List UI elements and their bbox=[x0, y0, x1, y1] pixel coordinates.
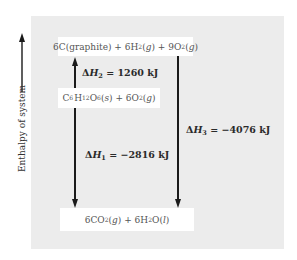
dh2-symbol: ΔH bbox=[82, 67, 98, 78]
dh1-label: ΔH1 = −2816 kJ bbox=[85, 149, 169, 160]
top-text-5: ) bbox=[194, 42, 198, 52]
bot-text-3: O( bbox=[152, 215, 163, 225]
bot-text-4: ) bbox=[166, 215, 170, 225]
dh3-symbol: ΔH bbox=[186, 124, 202, 135]
dh3-arrow-head-icon bbox=[175, 199, 181, 208]
mid-c: C bbox=[62, 93, 69, 103]
dh2-label: ΔH2 = 1260 kJ bbox=[82, 67, 158, 78]
dh1-value: = −2816 kJ bbox=[109, 149, 169, 160]
dh1-subscript: 1 bbox=[101, 154, 106, 162]
bot-text-2: ) + 6H bbox=[118, 215, 148, 225]
axis-arrow-head-icon bbox=[19, 33, 25, 42]
dh1-arrow-head-icon bbox=[72, 199, 78, 208]
dh2-subscript: 2 bbox=[98, 72, 103, 80]
top-text-3: ) + 9O bbox=[151, 42, 181, 52]
dh3-subscript: 3 bbox=[202, 129, 207, 137]
bot-text-1: 6CO bbox=[85, 215, 105, 225]
dh3-label: ΔH3 = −4076 kJ bbox=[186, 124, 270, 135]
mid-o: O bbox=[90, 93, 97, 103]
axis-label: Enthalpy of system bbox=[17, 85, 27, 172]
level-middle-glucose: C6H12O6(s) + 6O2(g) bbox=[58, 88, 160, 108]
dh1-symbol: ΔH bbox=[85, 149, 101, 160]
top-text-1: 6C(graphite) + 6H bbox=[53, 42, 138, 52]
mid-h: H bbox=[74, 93, 82, 103]
dh2-arrow-head-icon bbox=[72, 57, 78, 66]
dh2-value: = 1260 kJ bbox=[106, 67, 158, 78]
level-top-reactants: 6C(graphite) + 6H2(g) + 9O2(g) bbox=[58, 37, 193, 56]
mid-end: ) bbox=[152, 93, 156, 103]
dh3-value: = −4076 kJ bbox=[210, 124, 270, 135]
level-bottom-products: 6CO2(g) + 6H2O(l) bbox=[60, 208, 194, 231]
mid-rest: ) + 6O bbox=[109, 93, 139, 103]
